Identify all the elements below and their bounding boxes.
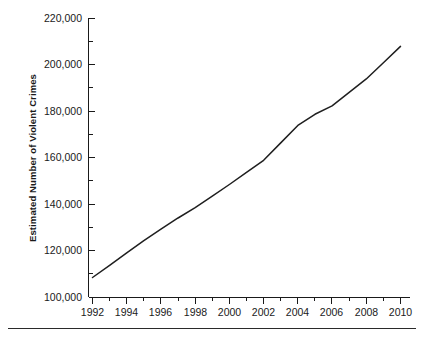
x-tick-label-2000: 2000 <box>218 306 242 318</box>
x-tick-label-1992: 1992 <box>81 306 105 318</box>
x-tick-label-2006: 2006 <box>320 306 344 318</box>
y-axis-label: Estimated Number of Violent Crimes <box>27 74 38 242</box>
chart-figure: Estimated Number of Violent Crimes 100,0… <box>0 0 424 340</box>
x-tick-label-1996: 1996 <box>149 306 173 318</box>
x-tick-label-1998: 1998 <box>184 306 208 318</box>
y-tick-label-100000: 100,000 <box>44 291 82 303</box>
x-tick-label-2004: 2004 <box>286 306 310 318</box>
x-tick-label-2002: 2002 <box>252 306 276 318</box>
x-tick-label-1994: 1994 <box>115 306 139 318</box>
x-tick-label-2008: 2008 <box>355 306 379 318</box>
y-tick-label-120000: 120,000 <box>44 244 82 256</box>
y-tick-label-180000: 180,000 <box>44 105 82 117</box>
chart-background <box>0 0 424 340</box>
y-tick-label-200000: 200,000 <box>44 58 82 70</box>
y-tick-label-140000: 140,000 <box>44 198 82 210</box>
y-tick-label-160000: 160,000 <box>44 151 82 163</box>
y-tick-label-220000: 220,000 <box>44 12 82 24</box>
x-tick-label-2010: 2010 <box>389 306 413 318</box>
violent-crimes-line-chart: Estimated Number of Violent Crimes 100,0… <box>0 0 424 340</box>
